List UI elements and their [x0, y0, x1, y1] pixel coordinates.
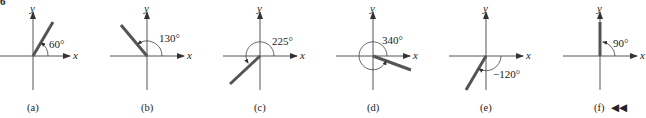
- x-axis-label: x: [639, 49, 645, 61]
- y-axis-label: y: [482, 2, 488, 14]
- panel-caption: (d): [367, 102, 380, 114]
- panel-a: y x 60° (a): [0, 2, 78, 114]
- panel-d: y x 340° (d): [336, 2, 418, 114]
- x-axis-label: x: [186, 49, 192, 61]
- angle-ray: [373, 56, 411, 70]
- panel-caption: (c): [254, 102, 266, 114]
- panel-b: y x 130° (b): [110, 2, 192, 114]
- angle-ray: [121, 25, 147, 56]
- angle-label: 340°: [382, 34, 403, 46]
- angle-label: 90°: [613, 37, 628, 49]
- angle-arc: [41, 43, 48, 56]
- figure-corner-mark: 6: [0, 0, 6, 7]
- panel-f: y x 90° (f) ◀◀: [563, 2, 645, 114]
- x-axis-label: x: [412, 49, 418, 61]
- panel-caption: (a): [27, 102, 39, 114]
- y-axis-label: y: [256, 2, 262, 14]
- angle-diagrams: 6 y x 60° (a) y x 130° (b) y x 225° (c) …: [0, 0, 646, 118]
- y-axis-label: y: [596, 2, 602, 14]
- angle-ray: [230, 56, 260, 84]
- panel-e: y x −120° (e): [449, 2, 531, 114]
- x-axis-label: x: [525, 49, 531, 61]
- rewind-double-left-icon[interactable]: ◀◀: [611, 102, 628, 113]
- x-axis-label: x: [299, 49, 305, 61]
- panel-c: y x 225° (c): [223, 2, 305, 114]
- x-axis-label: x: [72, 49, 78, 61]
- y-axis-label: y: [29, 2, 35, 14]
- panel-caption: (e): [480, 102, 492, 114]
- angle-ray: [466, 56, 486, 90]
- angle-label: −120°: [493, 68, 520, 80]
- angle-label: 225°: [272, 35, 293, 47]
- panel-caption: (f): [594, 102, 605, 114]
- angle-label: 60°: [49, 38, 64, 50]
- y-axis-label: y: [143, 2, 149, 14]
- panel-caption: (b): [141, 102, 154, 114]
- y-axis-label: y: [369, 2, 375, 14]
- angle-label: 130°: [159, 32, 180, 44]
